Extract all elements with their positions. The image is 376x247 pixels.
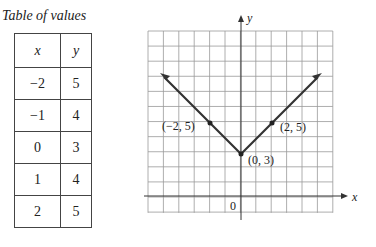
x-axis-label: x — [351, 190, 358, 204]
label-0-3: (0, 3) — [248, 153, 274, 167]
y-axis-arrow-icon — [238, 15, 244, 22]
y-axis-label: y — [246, 11, 253, 25]
graph: (−2, 5) (2, 5) (0, 3) 0 x y — [0, 0, 376, 247]
x-axis-arrow-icon — [341, 193, 348, 199]
origin-label: 0 — [230, 199, 236, 213]
label-neg2-5: (−2, 5) — [162, 119, 195, 133]
label-2-5: (2, 5) — [280, 120, 306, 134]
